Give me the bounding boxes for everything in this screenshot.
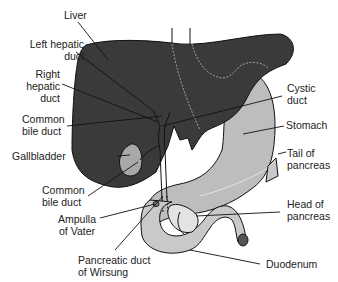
label-tail-line1: Tail of	[287, 147, 330, 159]
label-stomach: Stomach	[286, 119, 327, 131]
label-cystic-duct-line1: Cystic	[287, 82, 316, 94]
label-left-hepatic-duct: Left hepatic duct	[14, 38, 84, 62]
label-liver: Liver	[64, 9, 87, 21]
label-common-bile-duct-lower-line2: bile duct	[42, 196, 85, 208]
label-pancreatic-duct-of-wirsung: Pancreatic duct of Wirsung	[78, 254, 150, 278]
duodenum-lumen	[238, 234, 248, 246]
label-right-hepatic-duct: Right hepatic duct	[10, 68, 60, 104]
label-cystic-duct: Cystic duct	[287, 82, 316, 106]
label-gallbladder: Gallbladder	[12, 150, 66, 162]
label-wirsung-line2: of Wirsung	[78, 266, 150, 278]
label-ampulla-of-vater: Ampulla of Vater	[52, 213, 102, 237]
label-common-bile-duct-upper-line1: Common	[22, 113, 65, 125]
label-left-hepatic-duct-line2: duct	[14, 50, 84, 62]
label-right-hepatic-duct-line2: hepatic	[10, 80, 60, 92]
label-left-hepatic-duct-line1: Left hepatic	[14, 38, 84, 50]
label-tail-of-pancreas: Tail of pancreas	[287, 147, 330, 171]
label-head-line2: pancreas	[287, 210, 330, 222]
label-common-bile-duct-upper: Common bile duct	[22, 113, 65, 137]
label-cystic-duct-line2: duct	[287, 94, 316, 106]
label-right-hepatic-duct-line1: Right	[10, 68, 60, 80]
label-head-line1: Head of	[287, 198, 330, 210]
label-tail-line2: pancreas	[287, 159, 330, 171]
label-head-of-pancreas: Head of pancreas	[287, 198, 330, 222]
label-ampulla-line2: of Vater	[52, 225, 102, 237]
label-wirsung-line1: Pancreatic duct	[78, 254, 150, 266]
label-duodenum: Duodenum	[266, 258, 317, 270]
label-common-bile-duct-upper-line2: bile duct	[22, 125, 65, 137]
label-common-bile-duct-lower-line1: Common	[42, 184, 85, 196]
label-common-bile-duct-lower: Common bile duct	[42, 184, 85, 208]
label-ampulla-line1: Ampulla	[52, 213, 102, 225]
label-right-hepatic-duct-line3: duct	[10, 92, 60, 104]
